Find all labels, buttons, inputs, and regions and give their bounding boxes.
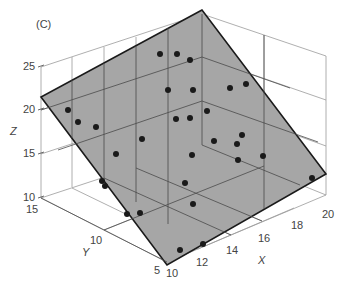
- data-point: [124, 211, 130, 217]
- 3d-scatter-plot: [0, 0, 347, 290]
- data-point: [93, 124, 99, 130]
- data-point: [182, 180, 188, 186]
- data-point: [157, 51, 163, 57]
- data-point: [190, 87, 196, 93]
- data-point: [189, 152, 195, 158]
- data-point: [65, 107, 71, 113]
- data-point: [235, 157, 241, 163]
- data-point: [234, 141, 240, 147]
- z-tick-10: 10: [23, 191, 35, 203]
- data-point: [187, 57, 193, 63]
- x-axis-label: X: [258, 254, 265, 266]
- data-point: [239, 132, 245, 138]
- data-point: [99, 178, 105, 184]
- y-tick-15: 15: [26, 203, 38, 215]
- x-tick-14: 14: [226, 244, 238, 256]
- z-tick-20: 20: [23, 103, 35, 115]
- regression-plane: [41, 10, 326, 265]
- x-tick-20: 20: [322, 208, 334, 220]
- data-point: [165, 87, 171, 93]
- data-point: [211, 138, 217, 144]
- data-point: [243, 81, 249, 87]
- data-point: [137, 210, 143, 216]
- z-tick-15: 15: [23, 147, 35, 159]
- data-point: [113, 151, 119, 157]
- data-point: [139, 136, 145, 142]
- x-tick-10: 10: [166, 267, 178, 279]
- data-point: [227, 85, 233, 91]
- data-point: [260, 153, 266, 159]
- data-point: [173, 116, 179, 122]
- z-axis-label: Z: [10, 125, 17, 137]
- y-tick-10: 10: [90, 234, 102, 246]
- data-point: [174, 51, 180, 57]
- data-point: [75, 119, 81, 125]
- data-point: [309, 175, 315, 181]
- y-axis-label: Y: [82, 246, 89, 258]
- x-tick-16: 16: [258, 232, 270, 244]
- data-point: [177, 247, 183, 253]
- data-point: [200, 241, 206, 247]
- y-tick-5: 5: [154, 264, 160, 276]
- z-tick-25: 25: [23, 60, 35, 72]
- data-point: [187, 115, 193, 121]
- data-point: [190, 201, 196, 207]
- x-tick-12: 12: [196, 256, 208, 268]
- data-point: [204, 108, 210, 114]
- data-point: [102, 183, 108, 189]
- x-tick-18: 18: [291, 219, 303, 231]
